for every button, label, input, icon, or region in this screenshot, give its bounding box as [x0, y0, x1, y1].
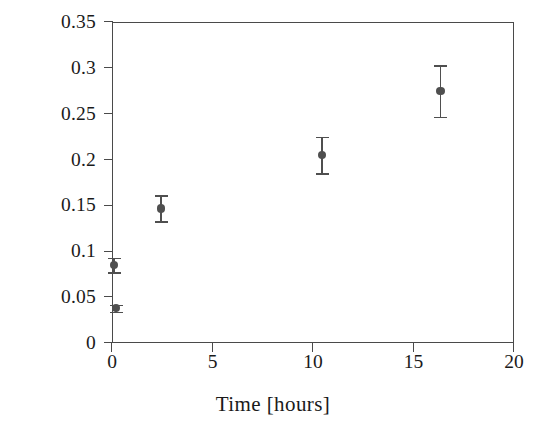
x-axis-title: Time [hours]: [0, 392, 546, 417]
marker-dot: [436, 87, 445, 96]
marker-dot: [157, 204, 166, 213]
error-bar-cap-lower: [434, 117, 447, 119]
error-bar-cap-upper: [316, 137, 329, 139]
error-bar-cap-upper: [434, 65, 447, 67]
marker-dot: [110, 261, 119, 270]
error-bar-cap-lower: [155, 221, 168, 223]
error-bar-cap-upper: [108, 258, 121, 260]
chart-figure: 00.050.10.150.20.250.30.35 05101520 Time…: [0, 0, 546, 435]
error-bar-cap-lower: [110, 312, 123, 314]
marker-dot: [318, 151, 327, 160]
error-bar-cap-lower: [316, 173, 329, 175]
error-bar-cap-lower: [108, 272, 121, 274]
plot-area: [112, 22, 514, 343]
error-bar-cap-upper: [155, 195, 168, 197]
